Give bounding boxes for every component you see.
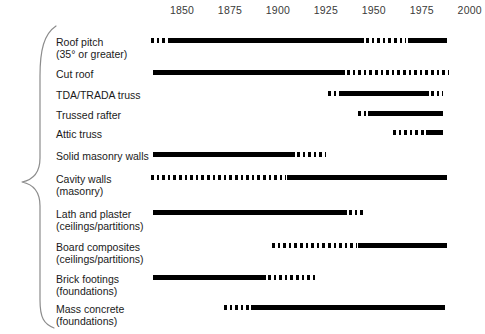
- axis-tick-1925: 1925: [314, 4, 338, 16]
- timeline-bar-row: [0, 207, 485, 219]
- timeline-segment-dotted: [358, 111, 366, 116]
- timeline-bar-row: [0, 35, 485, 47]
- timeline-bar-row: [0, 149, 485, 161]
- timeline-segment-solid: [153, 70, 345, 75]
- timeline-segment-solid: [408, 38, 446, 43]
- timeline-segment-solid: [358, 243, 446, 248]
- timeline-segment-solid: [170, 38, 364, 43]
- axis-tick-2000: 2000: [458, 4, 482, 16]
- timeline-bar-row: [0, 88, 485, 100]
- timeline-segment-solid: [368, 111, 443, 116]
- timeline-segment-solid: [251, 305, 445, 310]
- axis-tick-1950: 1950: [362, 4, 386, 16]
- timeline-bar-row: [0, 272, 485, 284]
- year-axis: 1850187519001925195019752000: [0, 0, 485, 24]
- timeline-segment-dotted: [328, 91, 338, 96]
- timeline-segment-dotted: [431, 91, 443, 96]
- timeline-segment-dotted: [224, 305, 249, 310]
- axis-tick-1850: 1850: [170, 4, 194, 16]
- timeline-segment-dotted: [366, 38, 406, 43]
- timeline-bar-row: [0, 127, 485, 139]
- timeline-segment-dotted: [268, 275, 316, 280]
- timeline-segment-solid: [153, 210, 347, 215]
- timeline-segment-dotted: [151, 175, 285, 180]
- timeline-bar-row: [0, 240, 485, 252]
- timeline-segment-solid: [287, 175, 446, 180]
- timeline-segment-solid: [339, 91, 429, 96]
- timeline-segment-solid: [153, 275, 266, 280]
- timeline-bar-row: [0, 302, 485, 314]
- timeline-segment-dotted: [272, 243, 356, 248]
- timeline-bar-row: [0, 108, 485, 120]
- construction-timeline-chart: 1850187519001925195019752000 Roof pitch(…: [0, 0, 485, 334]
- axis-tick-1875: 1875: [218, 4, 242, 16]
- timeline-segment-dotted: [393, 130, 424, 135]
- timeline-bar-row: [0, 172, 485, 184]
- axis-tick-1975: 1975: [410, 4, 434, 16]
- timeline-segment-solid: [153, 152, 295, 157]
- timeline-segment-dotted: [151, 38, 170, 43]
- timeline-segment-solid: [426, 130, 443, 135]
- timeline-segment-dotted: [347, 70, 449, 75]
- axis-tick-1900: 1900: [266, 4, 290, 16]
- timeline-segment-dotted: [349, 210, 364, 215]
- timeline-bar-row: [0, 67, 485, 79]
- timeline-segment-dotted: [297, 152, 326, 157]
- bar-plot-area: [0, 24, 485, 334]
